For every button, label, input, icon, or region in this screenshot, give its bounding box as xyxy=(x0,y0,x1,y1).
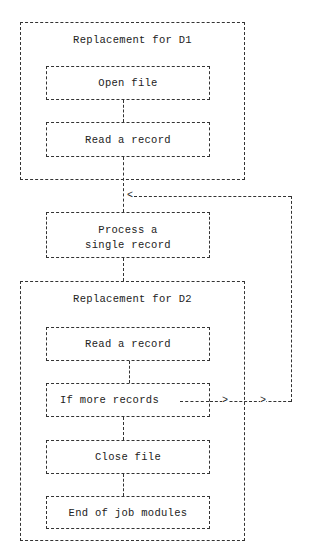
connector-open-to-read xyxy=(123,100,124,122)
group-d1-title: Replacement for D1 xyxy=(20,33,245,47)
if-more-inner-dash xyxy=(180,401,209,402)
loop-back-horizontal-line xyxy=(134,196,291,197)
close-file-label: Close file xyxy=(46,450,210,464)
loop-out-arrowhead-2: > xyxy=(260,396,266,406)
connector-read-to-process xyxy=(123,157,124,212)
group-d2-title: Replacement for D2 xyxy=(20,292,245,306)
loop-back-arrowhead: < xyxy=(127,191,133,201)
connector-if-to-close xyxy=(123,417,124,440)
end-of-job-label: End of job modules xyxy=(46,506,210,520)
connector-close-to-end xyxy=(123,474,124,496)
connector-read-to-if xyxy=(129,361,130,383)
open-file-label: Open file xyxy=(46,76,210,90)
loop-back-vertical-line xyxy=(291,196,292,402)
read-record-2-label: Read a record xyxy=(46,337,210,351)
if-more-label: If more records xyxy=(60,393,180,407)
process-label-line1: Process a xyxy=(46,223,210,237)
connector-process-to-d2 xyxy=(123,258,124,281)
process-label-line2: single record xyxy=(46,238,210,252)
loop-out-arrowhead-1: > xyxy=(222,396,228,406)
read-record-1-label: Read a record xyxy=(46,133,210,147)
